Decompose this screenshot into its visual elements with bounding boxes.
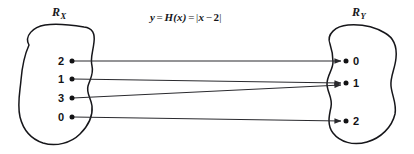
function-formula: y=H(x)=|x−2| bbox=[150, 11, 222, 23]
formula-equals-first: = bbox=[155, 11, 164, 23]
domain-set-label: RX bbox=[52, 5, 66, 21]
formula-equals-second: = bbox=[187, 11, 196, 23]
codomain-set-label-base: R bbox=[352, 5, 360, 19]
codomain-set-blob bbox=[327, 25, 396, 144]
codomain-dot-1 bbox=[344, 81, 349, 86]
domain-set-blob bbox=[19, 24, 95, 144]
codomain-element-label-0: 0 bbox=[353, 56, 359, 67]
mapping-arrow-0-to-2 bbox=[73, 117, 341, 121]
codomain-element-label-1: 1 bbox=[353, 78, 359, 89]
codomain-dot-2 bbox=[344, 119, 349, 124]
mapping-arrows bbox=[73, 61, 341, 121]
domain-dot-0 bbox=[70, 115, 75, 120]
domain-element-label-2: 2 bbox=[58, 56, 64, 67]
formula-minus-sign: − bbox=[204, 11, 213, 23]
formula-abs-close-bar: | bbox=[219, 11, 221, 23]
domain-element-label-3: 3 bbox=[58, 93, 64, 104]
domain-dot-2 bbox=[70, 59, 75, 64]
codomain-set-label-subscript: Y bbox=[360, 11, 366, 21]
domain-dot-1 bbox=[70, 77, 75, 82]
domain-set-label-subscript: X bbox=[60, 11, 66, 21]
mapping-diagram: RX RY y=H(x)=|x−2| 2 1 3 0 0 1 2 bbox=[0, 0, 414, 154]
domain-set-label-base: R bbox=[52, 5, 60, 19]
mapping-arrow-1-to-1 bbox=[73, 79, 341, 83]
domain-dot-3 bbox=[70, 96, 75, 101]
mapping-arrow-3-to-1 bbox=[73, 85, 341, 98]
codomain-element-label-2: 2 bbox=[353, 116, 359, 127]
formula-function-expression: H(x) bbox=[165, 11, 187, 23]
domain-element-label-0: 0 bbox=[58, 112, 64, 123]
codomain-dot-0 bbox=[344, 59, 349, 64]
domain-element-label-1: 1 bbox=[58, 74, 64, 85]
codomain-set-label: RY bbox=[352, 5, 366, 21]
